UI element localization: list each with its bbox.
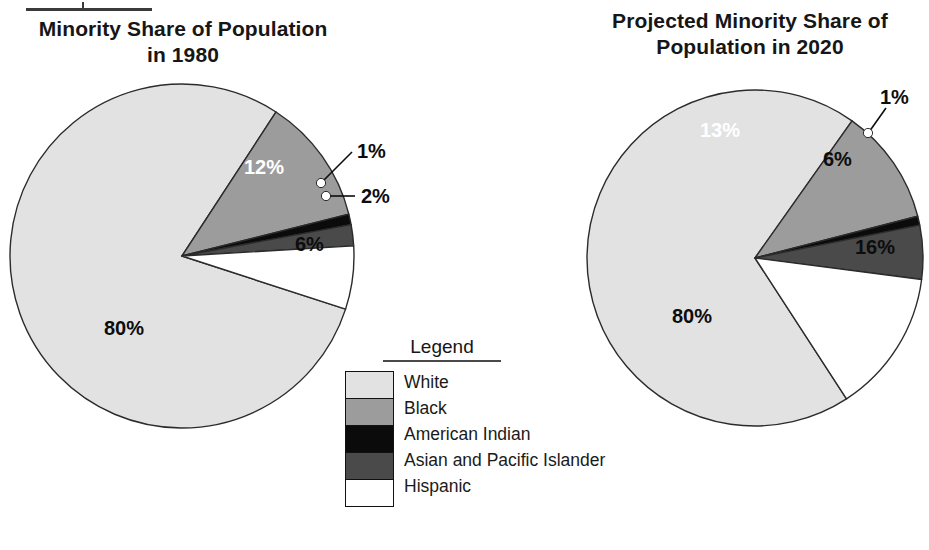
legend-swatch-white [346,372,393,399]
pie-label-right-hispanic: 16% [855,236,895,258]
legend-title: Legend [383,336,501,362]
pie-label-right-american-indian: 1% [880,86,909,108]
legend-swatch-asian-pacific [346,453,393,480]
leader-line-right-american-indian [869,108,886,132]
legend-swatch-column [345,371,394,507]
pie-label-right-white: 80% [672,305,712,327]
pie-label-left-black: 12% [244,156,284,178]
legend-label-white: White [404,369,605,395]
leader-dot-right-american-indian [863,128,872,137]
pie-chart-right: 80% 13% 1% 6% 16% [587,86,923,426]
pie-label-right-black: 13% [700,119,740,141]
pie-label-left-asian-pacific: 2% [361,185,390,207]
legend-label-black: Black [404,395,605,421]
pie-label-left-hispanic: 6% [295,233,324,255]
legend-swatch-american-indian [346,426,393,453]
legend: Legend White Black American Indian Asian… [345,336,595,507]
legend-swatch-hispanic [346,480,393,506]
leader-dot-left-asian-pacific [321,191,330,200]
legend-label-asian-pacific: Asian and Pacific Islander [404,447,605,473]
pie-label-left-american-indian: 1% [357,140,386,162]
pie-label-right-asian-pacific: 6% [823,148,852,170]
leader-dot-left-american-indian [316,178,325,187]
legend-label-column: White Black American Indian Asian and Pa… [404,369,605,499]
figure-canvas: Minority Share of Population in 1980 Pro… [0,0,929,550]
legend-label-hispanic: Hispanic [404,473,605,499]
legend-swatch-black [346,399,393,426]
legend-label-american-indian: American Indian [404,421,605,447]
pie-label-left-white: 80% [104,317,144,339]
legend-body: White Black American Indian Asian and Pa… [345,369,595,507]
